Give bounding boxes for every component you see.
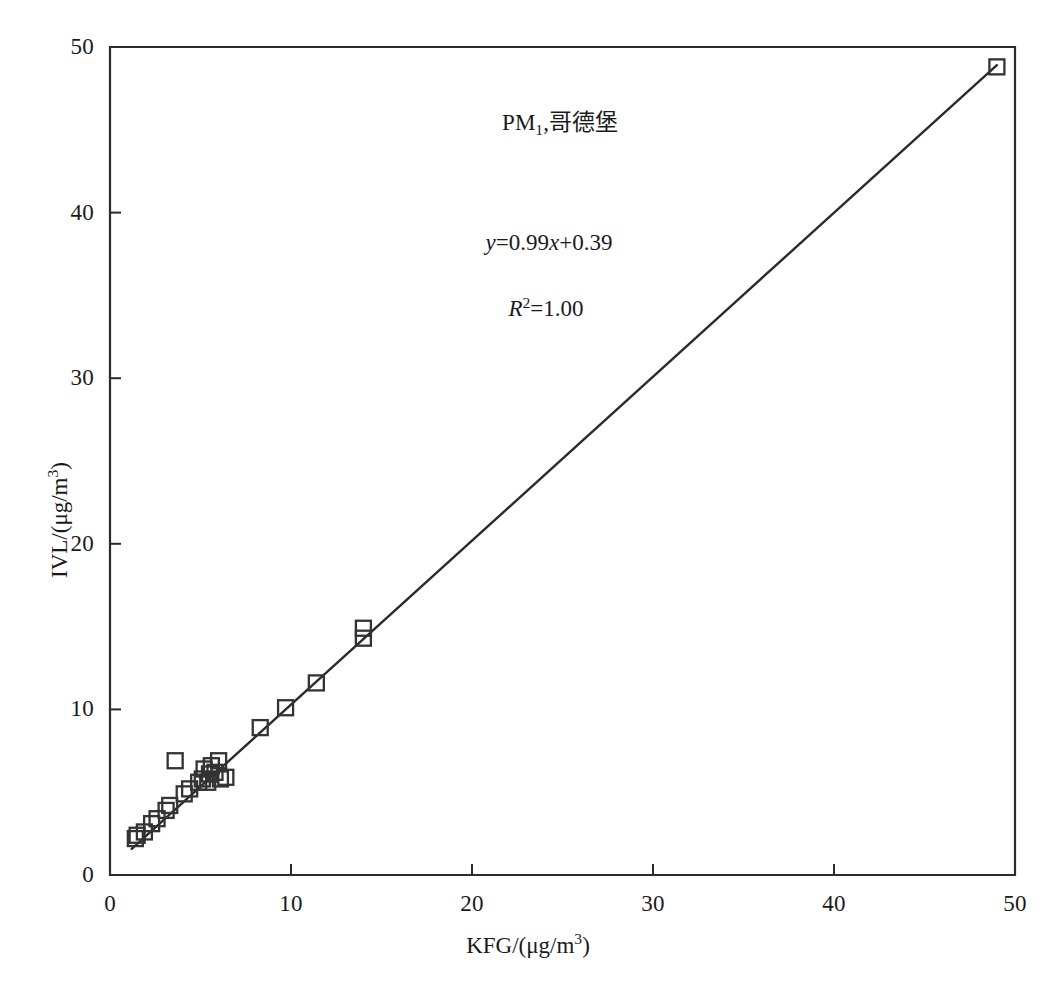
x-tick-label: 10	[279, 891, 302, 917]
x-axis-title-suffix: )	[582, 933, 590, 958]
x-axis-title-exponent: 3	[574, 930, 582, 947]
x-tick-label: 50	[1003, 891, 1026, 917]
y-axis-title-suffix: )	[47, 462, 72, 470]
x-tick-label: 40	[822, 891, 845, 917]
y-axis-title-prefix: IVL/(μg/m	[47, 478, 72, 578]
plot-canvas	[0, 0, 1056, 991]
data-point	[168, 753, 183, 768]
series-annotation: PM1,哥德堡	[502, 103, 618, 140]
r-squared-symbol: R	[508, 296, 522, 321]
y-tick-label: 0	[82, 862, 94, 888]
x-axis-title-prefix: KFG/(μg/m	[466, 933, 574, 958]
y-axis-title-exponent: 3	[44, 470, 61, 478]
data-point	[989, 59, 1004, 74]
y-tick-label: 30	[71, 365, 94, 391]
series-name-prefix: PM	[502, 110, 535, 135]
scatter-chart: 0102030405001020304050 KFG/(μg/m3) IVL/(…	[0, 0, 1056, 991]
r-squared-exponent: 2	[523, 294, 531, 311]
regression-line	[132, 65, 997, 849]
equation-annotation: y=0.99x+0.39	[486, 230, 613, 256]
y-axis-title: IVL/(μg/m3)	[44, 462, 73, 578]
equation-tail: +0.39	[559, 230, 612, 255]
y-tick-label: 20	[71, 531, 94, 557]
x-axis-title: KFG/(μg/m3)	[466, 930, 590, 959]
x-tick-label: 30	[641, 891, 664, 917]
series-name-rest: ,哥德堡	[543, 110, 618, 135]
r-squared-value: =1.00	[530, 296, 583, 321]
r-squared-annotation: R2=1.00	[508, 294, 583, 323]
equation-body: =0.99	[496, 230, 549, 255]
equation-y-symbol: y	[486, 230, 496, 255]
equation-x-symbol: x	[549, 230, 559, 255]
y-tick-label: 10	[71, 696, 94, 722]
y-tick-label: 50	[71, 34, 94, 60]
x-tick-label: 0	[104, 891, 116, 917]
data-point	[177, 786, 192, 801]
y-tick-label: 40	[71, 200, 94, 226]
x-tick-label: 20	[460, 891, 483, 917]
series-name-subscript: 1	[535, 121, 543, 138]
